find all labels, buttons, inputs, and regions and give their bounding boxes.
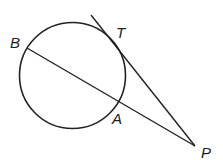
secant-line-bp (27, 48, 195, 146)
geometry-figure (0, 0, 223, 162)
point-label-b: B (10, 35, 20, 50)
tangent-line-pt (91, 15, 195, 146)
point-label-a: A (112, 111, 122, 126)
point-label-p: P (201, 145, 211, 160)
diagram-canvas: B T A P (0, 0, 223, 162)
point-label-t: T (116, 25, 125, 40)
